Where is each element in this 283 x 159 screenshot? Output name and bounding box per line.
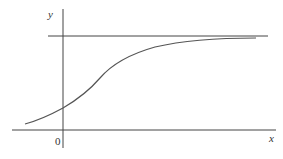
y-axis-label: y — [47, 8, 53, 20]
x-axis-label: x — [268, 132, 274, 144]
diagram-canvas: y 0 x — [0, 0, 283, 159]
origin-label: 0 — [55, 135, 61, 147]
growth-curve — [25, 38, 256, 124]
